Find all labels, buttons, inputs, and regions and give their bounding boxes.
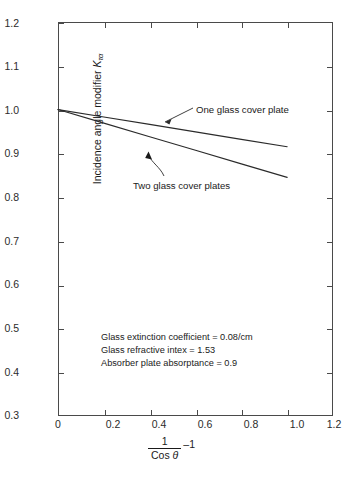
arrowhead-two-glass xyxy=(145,152,152,160)
note-line-absorptance: Absorber plate absorptance = 0.9 xyxy=(101,357,253,370)
annotation-leaders-layer xyxy=(0,0,358,478)
note-line-extinction-coefficient: Glass extinction coefficient = 0.08/cm xyxy=(101,331,253,344)
incidence-angle-modifier-chart: 1.2 1.1 1.0 0.9 0.8 0.7 0.6 0.5 0.4 0.3 … xyxy=(0,0,358,478)
curve-label-two-glass: Two glass cover plates xyxy=(133,180,230,191)
leader-line-one-glass xyxy=(165,108,193,122)
chart-notes: Glass extinction coefficient = 0.08/cm G… xyxy=(101,331,253,370)
note-line-refractive-index: Glass refractive intex = 1.53 xyxy=(101,344,253,357)
arrowhead-one-glass xyxy=(165,119,172,124)
curve-label-one-glass: One glass cover plate xyxy=(196,104,289,115)
